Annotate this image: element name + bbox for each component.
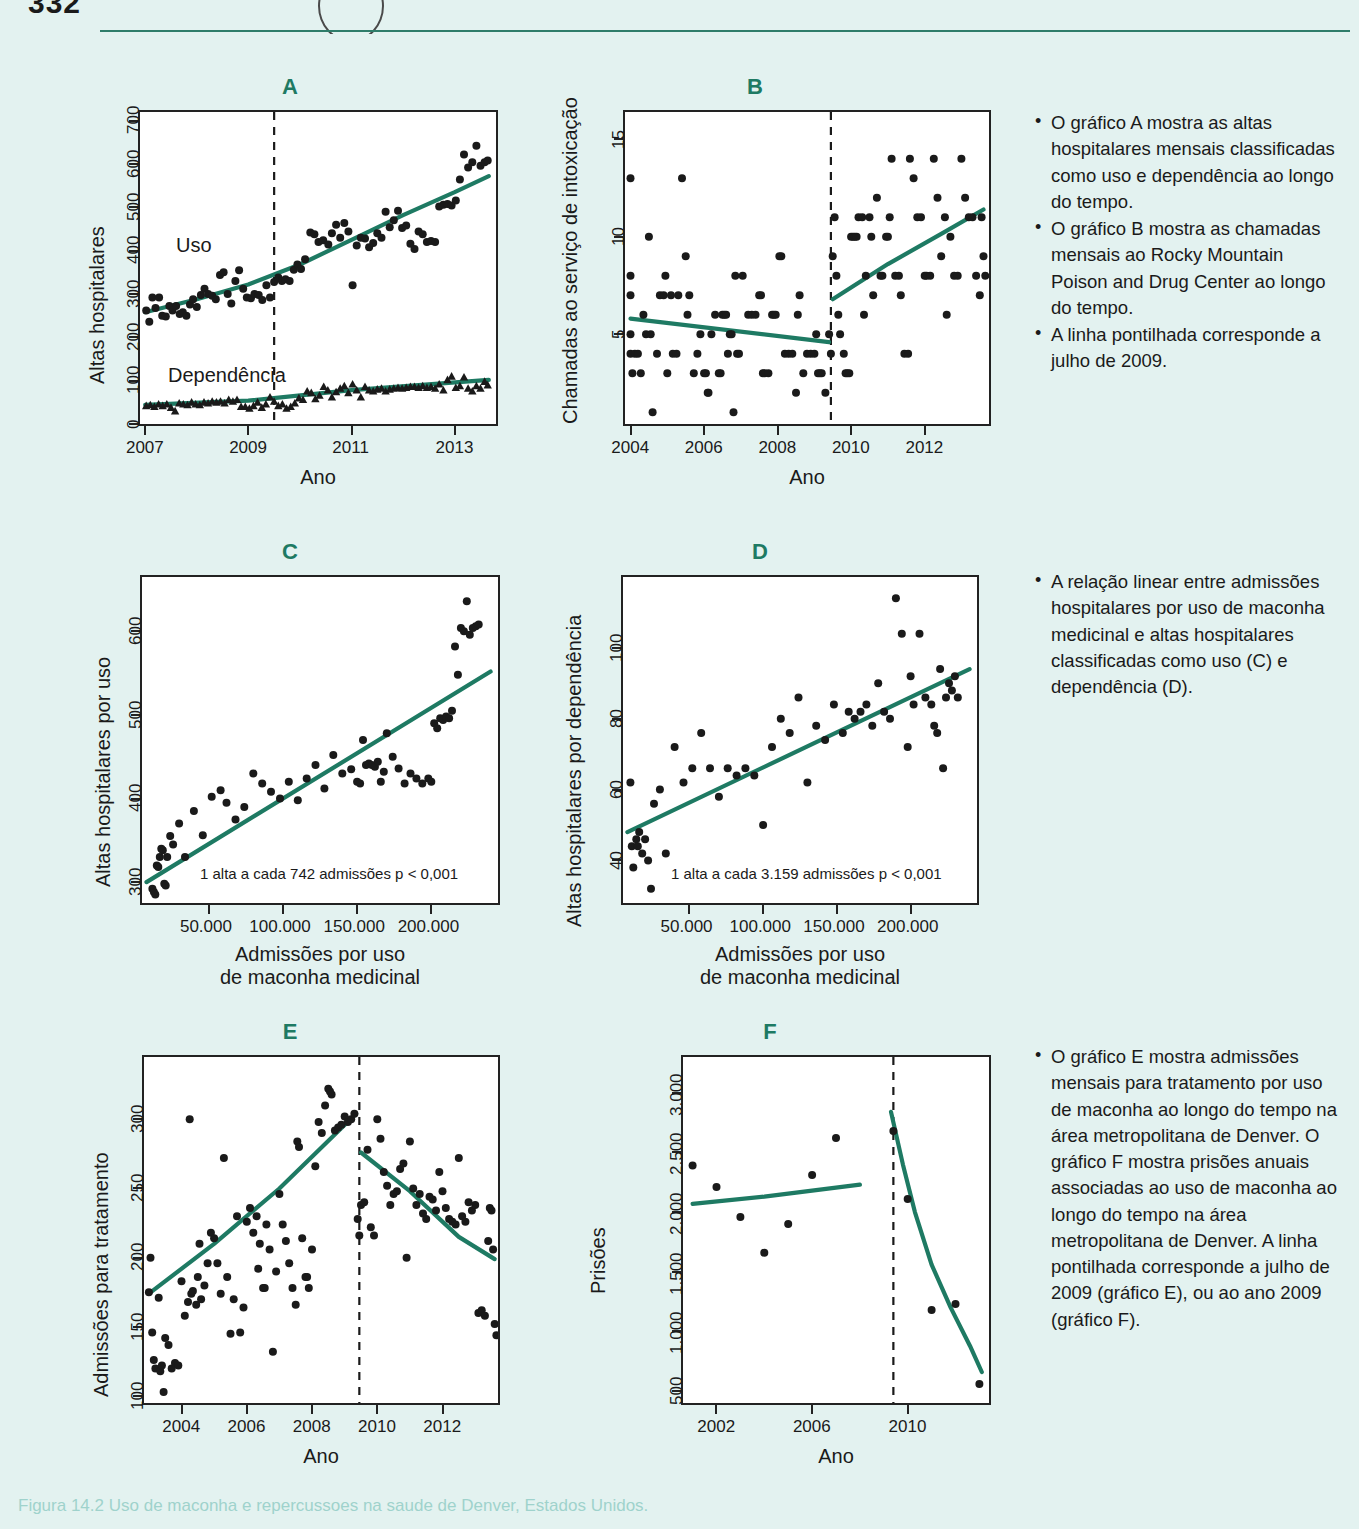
panel-a-y-axis-label: Altas hospitalares bbox=[86, 226, 109, 384]
x-tick-label: 2012 bbox=[905, 438, 943, 458]
panel-f-plot-area bbox=[681, 1055, 991, 1405]
x-tick-mark bbox=[850, 426, 852, 435]
y-tick-label: 400 bbox=[126, 784, 146, 812]
x-tick-label: 2006 bbox=[685, 438, 723, 458]
x-tick-label: 2009 bbox=[229, 438, 267, 458]
x-tick-mark bbox=[247, 426, 249, 435]
x-tick-label: 2010 bbox=[358, 1417, 396, 1437]
panel-b-x-axis-label: Ano bbox=[623, 466, 991, 489]
y-tick-label: 200 bbox=[124, 323, 144, 351]
note-item: A relação linear entre admissões hospita… bbox=[1035, 569, 1335, 700]
x-tick-label: 50.000 bbox=[661, 917, 713, 937]
y-tick-label: 500 bbox=[667, 1376, 687, 1404]
y-tick-label: 0 bbox=[124, 419, 144, 428]
x-tick-label: 2010 bbox=[832, 438, 870, 458]
panel-c-y-axis-label: Altas hospitalares por uso bbox=[92, 657, 115, 887]
x-tick-mark bbox=[924, 426, 926, 435]
panel-b-canvas bbox=[625, 112, 989, 424]
header-swoosh-decoration bbox=[318, 0, 384, 34]
x-tick-mark bbox=[630, 426, 632, 435]
x-tick-label: 100.000 bbox=[730, 917, 791, 937]
y-tick-label: 1.000 bbox=[667, 1312, 687, 1355]
x-tick-label: 2002 bbox=[697, 1417, 735, 1437]
x-tick-label: 200.000 bbox=[398, 917, 459, 937]
panel-c: C Altas hospitalares por uso 1 alta a ca… bbox=[70, 539, 510, 979]
panel-a-x-axis-label: Ano bbox=[138, 466, 498, 489]
x-tick-mark bbox=[762, 905, 764, 914]
y-tick-label: 500 bbox=[124, 193, 144, 221]
y-tick-label: 700 bbox=[124, 106, 144, 134]
y-tick-label: 60 bbox=[607, 780, 627, 799]
panel-d-title: D bbox=[535, 539, 985, 565]
panel-d: D Altas hospitalares por dependência 1 a… bbox=[545, 539, 995, 979]
panel-f-y-axis-label: Prisões bbox=[587, 1227, 610, 1294]
x-tick-label: 150.000 bbox=[803, 917, 864, 937]
y-tick-label: 600 bbox=[126, 617, 146, 645]
x-tick-mark bbox=[688, 905, 690, 914]
page-number: 332 bbox=[28, 0, 81, 20]
panel-b-title: B bbox=[530, 74, 980, 100]
y-tick-label: 300 bbox=[126, 868, 146, 896]
panel-e-title: E bbox=[70, 1019, 510, 1045]
x-tick-label: 2006 bbox=[793, 1417, 831, 1437]
x-tick-mark bbox=[715, 1405, 717, 1414]
panel-d-y-axis-label: Altas hospitalares por dependência bbox=[563, 615, 586, 927]
panel-b-y-axis-label: Chamadas ao serviço de intoxicação bbox=[559, 97, 582, 424]
y-tick-label: 200 bbox=[128, 1243, 148, 1271]
panel-a-canvas: UsoDependência bbox=[140, 112, 496, 424]
header-rule bbox=[100, 30, 1350, 32]
x-tick-label: 2011 bbox=[332, 438, 369, 458]
x-tick-mark bbox=[910, 905, 912, 914]
panel-d-annotation: 1 alta a cada 3.159 admissões p < 0,001 bbox=[671, 865, 942, 882]
panel-f-title: F bbox=[545, 1019, 995, 1045]
y-tick-label: 2.500 bbox=[667, 1133, 687, 1176]
panel-c-title: C bbox=[70, 539, 510, 565]
panel-d-plot-area: 1 alta a cada 3.159 admissões p < 0,001 bbox=[621, 575, 979, 905]
panel-a: A Altas hospitalares UsoDependência 0100… bbox=[70, 74, 510, 494]
y-tick-label: 10 bbox=[609, 227, 629, 246]
panel-a-plot-area: UsoDependência bbox=[138, 110, 498, 426]
notes-block-1: O gráfico A mostra as altas hospitalares… bbox=[1035, 110, 1335, 376]
panel-c-x-axis-label: Admissões por uso de maconha medicinal bbox=[125, 943, 515, 989]
x-tick-label: 2004 bbox=[611, 438, 649, 458]
panel-c-canvas bbox=[142, 577, 498, 903]
y-tick-label: 100 bbox=[128, 1382, 148, 1410]
y-tick-label: 2.000 bbox=[667, 1193, 687, 1236]
x-tick-mark bbox=[208, 905, 210, 914]
y-tick-label: 150 bbox=[128, 1312, 148, 1340]
x-tick-label: 50.000 bbox=[180, 917, 232, 937]
panel-a-title: A bbox=[70, 74, 510, 100]
panel-e: E Admissões para tratamento 100150200250… bbox=[70, 1019, 510, 1459]
x-tick-mark bbox=[351, 426, 353, 435]
y-tick-label: 500 bbox=[126, 700, 146, 728]
panel-d-canvas bbox=[623, 577, 977, 903]
panel-c-plot-area: 1 alta a cada 742 admissões p < 0,001 bbox=[140, 575, 500, 905]
y-tick-label: 100 bbox=[124, 366, 144, 394]
page-header: 332 bbox=[0, 0, 1359, 34]
x-tick-mark bbox=[282, 905, 284, 914]
x-tick-mark bbox=[311, 1405, 313, 1414]
x-tick-mark bbox=[356, 905, 358, 914]
y-tick-label: 15 bbox=[609, 130, 629, 149]
x-tick-mark bbox=[181, 1405, 183, 1414]
panel-e-y-axis-label: Admissões para tratamento bbox=[90, 1152, 113, 1397]
x-tick-label: 2012 bbox=[423, 1417, 461, 1437]
x-tick-mark bbox=[811, 1405, 813, 1414]
x-tick-label: 2007 bbox=[126, 438, 164, 458]
x-tick-label: 2006 bbox=[228, 1417, 266, 1437]
x-tick-label: 100.000 bbox=[249, 917, 310, 937]
panel-f: F Prisões 5001.0001.5002.0002.5003.000 2… bbox=[565, 1019, 1015, 1459]
x-tick-mark bbox=[907, 1405, 909, 1414]
panel-d-x-axis-label: Admissões por uso de maconha medicinal bbox=[605, 943, 995, 989]
x-tick-label: 150.000 bbox=[323, 917, 384, 937]
x-tick-mark bbox=[246, 1405, 248, 1414]
y-tick-label: 400 bbox=[124, 236, 144, 264]
x-tick-mark bbox=[836, 905, 838, 914]
x-tick-mark bbox=[376, 1405, 378, 1414]
y-tick-label: 80 bbox=[607, 709, 627, 728]
x-tick-label: 2013 bbox=[436, 438, 474, 458]
panel-e-canvas bbox=[144, 1057, 498, 1403]
svg-text:Dependência: Dependência bbox=[168, 364, 287, 386]
x-tick-mark bbox=[144, 426, 146, 435]
note-item: O gráfico B mostra as chamadas mensais a… bbox=[1035, 216, 1335, 321]
